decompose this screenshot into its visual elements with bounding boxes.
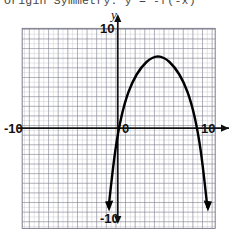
y-axis-label-positive: 10 [100, 22, 114, 35]
y-axis-label-negative: -10 [100, 212, 119, 225]
x-axis-label-positive: 10 [201, 122, 215, 135]
graph-svg [0, 0, 238, 237]
origin-label: 0 [122, 122, 129, 135]
coordinate-plane: -10 10 10 -10 0 y [0, 0, 238, 237]
y-axis-name-label: y [111, 8, 117, 21]
x-axis-label-negative: -10 [4, 122, 23, 135]
figure-container: Origin Symmetry: y = -f(-x) [0, 0, 238, 237]
